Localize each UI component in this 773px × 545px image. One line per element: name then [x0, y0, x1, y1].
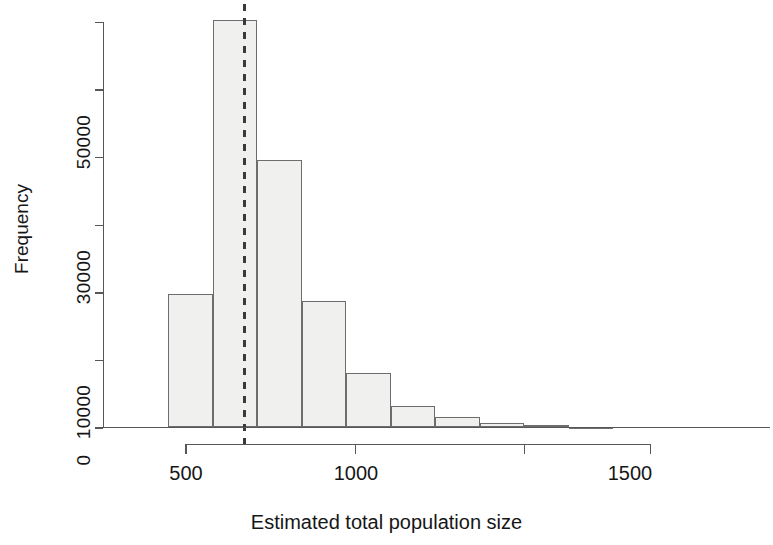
x-axis-tick-end [650, 444, 651, 454]
histogram-bar [346, 373, 391, 427]
y-axis-tick-40000 [95, 157, 103, 158]
y-axis-line [103, 22, 104, 428]
histogram-plot: 0 10000 30000 50000 Frequency 500 1000 1… [0, 0, 773, 545]
y-axis-tick-label-10000: 10000 [73, 362, 95, 462]
x-axis-title: Estimated total population size [0, 511, 773, 534]
y-axis-tick-10000 [95, 360, 103, 361]
y-axis-tick-50000 [95, 89, 103, 90]
y-axis-tick-label-30000: 30000 [73, 227, 95, 327]
x-axis-tick-label-500: 500 [169, 462, 202, 485]
x-axis-tick-1000 [355, 444, 356, 454]
x-axis-tick-label-1000: 1000 [334, 462, 379, 485]
x-axis-line [185, 444, 651, 445]
y-axis-tick-label-50000: 50000 [73, 92, 95, 192]
x-axis-tick-500 [185, 444, 186, 454]
y-axis-tick-20000 [95, 292, 103, 293]
y-axis-tick-0 [95, 427, 103, 428]
x-axis-tick-1500 [524, 444, 525, 454]
histogram-bar [168, 294, 213, 427]
y-axis-tick-60000 [95, 22, 103, 23]
observed-value-reference-line [243, 4, 246, 446]
histogram-bar [302, 301, 347, 427]
histogram-bar [435, 417, 480, 427]
histogram-bar [213, 20, 258, 428]
y-axis-title: Frequency [11, 169, 33, 289]
y-axis-tick-30000 [95, 225, 103, 226]
x-axis-tick-label-1500: 1500 [608, 462, 653, 485]
x-axis-baseline [103, 427, 770, 428]
histogram-bar [257, 160, 302, 427]
histogram-bar [391, 406, 436, 427]
